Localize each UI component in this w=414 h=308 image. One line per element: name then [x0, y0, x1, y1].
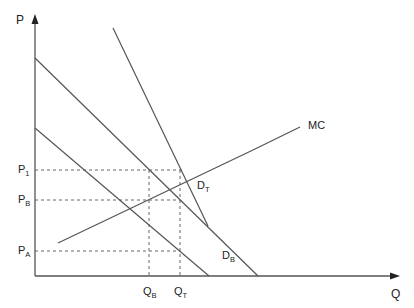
y-axis-label: P: [16, 14, 24, 26]
db-label: DB: [222, 250, 235, 264]
qt-label-base: Q: [174, 285, 183, 297]
dt-demand-curve: [113, 28, 208, 226]
dt-label-sub: T: [205, 185, 210, 194]
p1-label: P1: [18, 164, 30, 178]
mc-label: MC: [308, 120, 325, 131]
y-axis-arrow-icon: [32, 14, 39, 24]
x-axis-label: Q: [391, 288, 400, 300]
pa-label-sub: A: [25, 250, 30, 259]
diagram-canvas: [0, 0, 414, 308]
db-label-sub: B: [230, 255, 235, 264]
qb-label-base: Q: [143, 285, 152, 297]
pa-label: PA: [18, 245, 30, 259]
dt-label: DT: [197, 180, 210, 194]
pb-label-sub: B: [25, 199, 30, 208]
mc-curve-upper: [253, 127, 300, 150]
mc-curve: [58, 150, 253, 243]
economics-diagram: P Q MC DT DB P1 PB PA QB QT: [0, 0, 414, 308]
p1-label-sub: 1: [25, 169, 29, 178]
qt-label: QT: [174, 286, 187, 300]
qb-label-sub: B: [152, 291, 157, 300]
db-label-base: D: [222, 249, 230, 261]
pb-label: PB: [18, 194, 30, 208]
qt-label-sub: T: [183, 291, 188, 300]
dt-label-base: D: [197, 179, 205, 191]
x-axis-arrow-icon: [390, 273, 400, 280]
qb-label: QB: [143, 286, 157, 300]
upper-demand-curve: [35, 58, 258, 276]
